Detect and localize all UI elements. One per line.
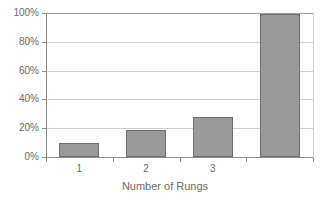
y-tick-label-80: 80% bbox=[19, 37, 39, 47]
y-tick-label-0: 0% bbox=[25, 152, 39, 162]
x-tick-mark-0 bbox=[46, 158, 47, 162]
bar-chart: 100% 80% 60% 40% 20% 0% 1 2 3 Number of … bbox=[0, 0, 330, 200]
bar-category-1 bbox=[59, 143, 99, 157]
y-tick-label-100: 100% bbox=[13, 8, 39, 18]
bar-category-2 bbox=[126, 130, 166, 157]
bar-category-3 bbox=[193, 117, 233, 157]
y-tick-mark-80 bbox=[42, 42, 46, 43]
y-axis-line bbox=[46, 13, 47, 158]
bar-category-4 bbox=[260, 14, 300, 157]
x-tick-mark-2 bbox=[180, 158, 181, 162]
y-tick-mark-100 bbox=[42, 13, 46, 14]
y-axis-tick-labels: 100% 80% 60% 40% 20% 0% bbox=[0, 0, 39, 200]
x-tick-mark-1 bbox=[113, 158, 114, 162]
plot-area bbox=[46, 13, 313, 157]
y-tick-label-60: 60% bbox=[19, 66, 39, 76]
x-tick-label-1: 1 bbox=[46, 163, 113, 174]
y-tick-label-40: 40% bbox=[19, 94, 39, 104]
x-tick-mark-3 bbox=[246, 158, 247, 162]
x-axis-title: Number of Rungs bbox=[0, 180, 330, 192]
y-tick-mark-60 bbox=[42, 71, 46, 72]
x-tick-label-3: 3 bbox=[180, 163, 247, 174]
x-tick-label-2: 2 bbox=[113, 163, 180, 174]
plot-right-edge bbox=[313, 13, 314, 158]
y-tick-mark-20 bbox=[42, 128, 46, 129]
y-tick-label-20: 20% bbox=[19, 123, 39, 133]
x-tick-mark-4 bbox=[313, 158, 314, 162]
y-tick-mark-40 bbox=[42, 99, 46, 100]
